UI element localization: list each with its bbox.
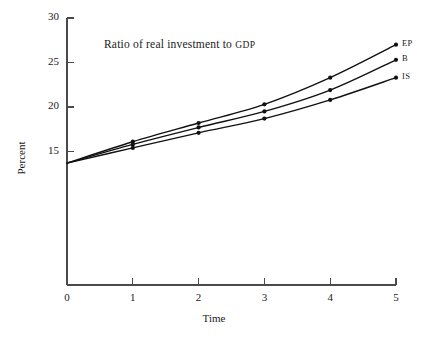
chart-title-main: Ratio of real investment to: [104, 38, 235, 50]
x-tick-label: 0: [55, 291, 79, 303]
x-tick-label: 2: [187, 291, 211, 303]
y-tick-label: 30: [29, 10, 59, 22]
data-series-group: [67, 45, 396, 163]
y-tick-label: 20: [29, 99, 59, 111]
chart-figure: Ratio of real investment to GDP Percent …: [0, 0, 428, 341]
series-label-is: IS: [402, 71, 410, 81]
chart-title: Ratio of real investment to GDP: [104, 38, 255, 50]
line-chart-plot: [0, 0, 428, 341]
y-tick-label: 25: [29, 55, 59, 67]
series-label-b: B: [402, 53, 408, 63]
x-tick-label: 4: [318, 291, 342, 303]
series-label-ep: EP: [402, 38, 413, 48]
y-axis-label: Percent: [15, 123, 27, 193]
x-axis-ticks: [133, 278, 396, 285]
x-tick-label: 1: [121, 291, 145, 303]
x-tick-label: 5: [384, 291, 408, 303]
y-axis-ticks: [67, 18, 74, 152]
chart-title-smallcaps: GDP: [235, 40, 255, 50]
x-tick-label: 3: [252, 291, 276, 303]
y-tick-label: 15: [29, 144, 59, 156]
x-axis-label: Time: [0, 312, 428, 324]
